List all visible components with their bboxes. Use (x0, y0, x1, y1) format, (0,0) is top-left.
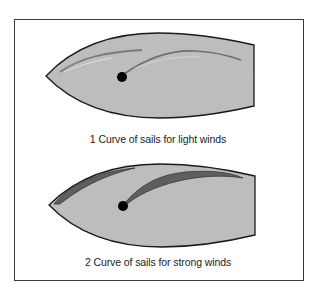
caption-strong-winds: 2 Curve of sails for strong winds (0, 256, 318, 268)
mast-icon (118, 201, 128, 211)
sail-curve-diagram (0, 0, 320, 294)
boat-diagram-light-winds (46, 33, 254, 118)
boat-hull-icon (46, 33, 254, 118)
caption-light-winds: 1 Curve of sails for light winds (0, 133, 318, 145)
boat-diagram-strong-winds (49, 164, 255, 247)
mast-icon (117, 72, 127, 82)
